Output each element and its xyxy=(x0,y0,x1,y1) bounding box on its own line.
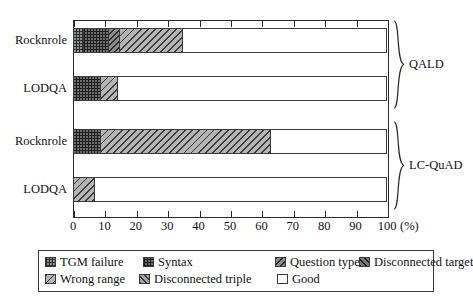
x-tick-label: 0 xyxy=(70,219,76,234)
group-label: LC-QuAD xyxy=(409,158,462,173)
legend-swatch-icon xyxy=(45,274,56,284)
group-brace xyxy=(393,121,406,210)
x-tick-bottom xyxy=(105,211,106,217)
legend-label: TGM failure xyxy=(60,256,124,269)
x-tick-bottom xyxy=(200,211,201,217)
x-tick-label: 30 xyxy=(161,219,174,234)
stacked-bar xyxy=(73,28,387,53)
legend-label: Wrong range xyxy=(60,273,125,286)
x-tick-top xyxy=(231,21,232,27)
x-tick-bottom xyxy=(388,211,389,217)
x-tick-bottom xyxy=(294,211,295,217)
x-tick-top xyxy=(200,21,201,27)
x-tick-top xyxy=(105,21,106,27)
x-tick-bottom xyxy=(168,211,169,217)
stacked-bar xyxy=(73,129,387,154)
bar-segment-tgm xyxy=(73,28,84,53)
x-tick-bottom xyxy=(231,211,232,217)
legend-item: Disconnected triple xyxy=(139,273,252,286)
bar-segment-good xyxy=(271,129,387,154)
bar-segment-wrange xyxy=(101,129,271,154)
bar-segment-syntax xyxy=(73,129,101,154)
bar-segment-syntax xyxy=(84,28,109,53)
legend-label: Disconnected triple xyxy=(154,273,252,286)
legend-label: Question type xyxy=(290,256,360,269)
x-tick-bottom xyxy=(137,211,138,217)
legend-swatch-icon xyxy=(143,257,154,267)
y-axis-label: Rocknrole xyxy=(15,33,67,48)
legend-swatch-icon xyxy=(275,257,286,267)
x-tick-label: 20 xyxy=(130,219,143,234)
x-tick-label: 50 xyxy=(224,219,237,234)
x-tick-top xyxy=(357,21,358,27)
legend-swatch-icon xyxy=(277,274,288,284)
x-tick-bottom xyxy=(357,211,358,217)
x-tick-top xyxy=(137,21,138,27)
stacked-bar xyxy=(73,177,387,202)
x-tick-label: 60 xyxy=(255,219,268,234)
bar-segment-syntax xyxy=(73,76,101,101)
y-axis-label: Rocknrole xyxy=(15,134,67,149)
x-tick-label: 90 xyxy=(349,219,362,234)
legend-label: Syntax xyxy=(158,256,193,269)
legend-item: TGM failure xyxy=(45,256,124,269)
bar-segment-wrange xyxy=(101,76,118,101)
x-tick-top xyxy=(325,21,326,27)
x-tick-label: 100 xyxy=(378,219,397,234)
legend-item: Wrong range xyxy=(45,273,125,286)
legend-label: Disconnected target xyxy=(374,256,473,269)
legend-swatch-icon xyxy=(359,257,370,267)
bar-segment-wrange xyxy=(120,28,183,53)
bar-segment-good xyxy=(183,28,387,53)
legend-swatch-icon xyxy=(139,274,150,284)
y-axis-label: LODQA xyxy=(23,182,67,197)
x-tick-top xyxy=(74,21,75,27)
x-tick-label: 80 xyxy=(318,219,331,234)
x-axis-unit-label: (%) xyxy=(400,219,419,234)
bar-segment-good xyxy=(118,76,387,101)
x-tick-top xyxy=(168,21,169,27)
x-tick-label: 10 xyxy=(98,219,111,234)
y-axis-label: LODQA xyxy=(23,81,67,96)
legend-item: Disconnected target xyxy=(359,256,473,269)
legend-swatch-icon xyxy=(45,257,56,267)
bar-segment-good xyxy=(95,177,387,202)
stacked-bar xyxy=(73,76,387,101)
legend-item: Question type xyxy=(275,256,360,269)
bar-segment-wrange xyxy=(73,177,95,202)
legend-label: Good xyxy=(292,273,320,286)
group-label: QALD xyxy=(409,57,444,72)
group-brace xyxy=(393,20,406,109)
x-tick-top xyxy=(294,21,295,27)
legend-box: TGM failureSyntaxQuestion typeDisconnect… xyxy=(38,250,434,292)
x-tick-top xyxy=(388,21,389,27)
x-tick-top xyxy=(262,21,263,27)
legend-item: Syntax xyxy=(143,256,193,269)
x-tick-label: 70 xyxy=(287,219,300,234)
x-tick-label: 40 xyxy=(192,219,205,234)
x-tick-bottom xyxy=(325,211,326,217)
bar-segment-qtype xyxy=(109,28,120,53)
legend-item: Good xyxy=(277,273,320,286)
x-tick-bottom xyxy=(262,211,263,217)
x-tick-bottom xyxy=(74,211,75,217)
